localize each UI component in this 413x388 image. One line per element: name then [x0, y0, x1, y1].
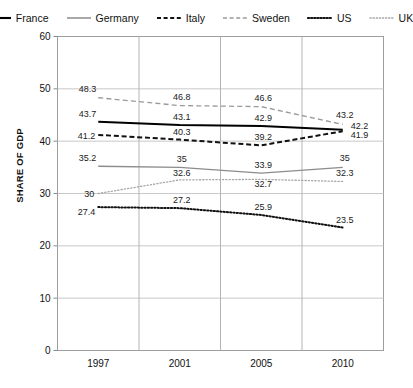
- y-tick-label: 50: [39, 83, 51, 94]
- point-label-france-2010: 42.2: [351, 121, 369, 131]
- point-label-uk-2010: 32.3: [336, 168, 354, 178]
- point-label-italy-2001: 40.3: [173, 127, 191, 137]
- point-label-us-1997: 27.4: [78, 207, 96, 217]
- point-label-france-2005: 42.9: [254, 113, 272, 123]
- point-label-germany-2001: 35: [177, 154, 187, 164]
- x-tick-label: 2001: [169, 358, 192, 369]
- y-tick-label: 20: [39, 240, 51, 251]
- y-axis-ticks: 0102030405060: [39, 31, 57, 356]
- series-point-labels: 43.743.142.942.235.23533.93541.240.339.2…: [78, 84, 369, 225]
- point-label-sweden-2005: 46.6: [254, 93, 272, 103]
- y-tick-label: 10: [39, 293, 51, 304]
- point-label-germany-1997: 35.2: [79, 153, 97, 163]
- point-label-italy-1997: 41.2: [78, 131, 96, 141]
- legend-label-uk: UK: [399, 13, 413, 24]
- x-tick-label: 2010: [332, 358, 355, 369]
- point-label-uk-2005: 32.7: [254, 179, 272, 189]
- y-tick-label: 60: [39, 31, 51, 42]
- y-tick-label: 30: [39, 188, 51, 199]
- y-tick-label: 0: [45, 345, 51, 356]
- point-label-sweden-1997: 48.3: [79, 84, 97, 94]
- gridlines: [58, 37, 384, 351]
- point-label-germany-2005: 33.9: [254, 160, 272, 170]
- point-label-france-1997: 43.7: [79, 109, 97, 119]
- point-label-sweden-2010: 43.2: [336, 110, 354, 120]
- point-label-sweden-2001: 46.8: [173, 92, 191, 102]
- y-tick-label: 40: [39, 136, 51, 147]
- point-label-us-2001: 27.2: [173, 195, 191, 205]
- point-label-italy-2005: 39.2: [254, 132, 272, 142]
- x-tick-label: 2005: [250, 358, 273, 369]
- point-label-us-2010: 23.5: [336, 215, 354, 225]
- point-label-germany-2010: 35: [340, 153, 350, 163]
- x-axis-ticks: 1997200120052010: [87, 358, 354, 369]
- point-label-us-2005: 25.9: [254, 202, 272, 212]
- point-label-uk-1997: 30: [84, 189, 94, 199]
- x-tick-label: 1997: [87, 358, 110, 369]
- point-label-uk-2001: 32.6: [173, 168, 191, 178]
- point-label-france-2001: 43.1: [173, 112, 191, 122]
- point-label-italy-2010: 41.9: [351, 130, 369, 140]
